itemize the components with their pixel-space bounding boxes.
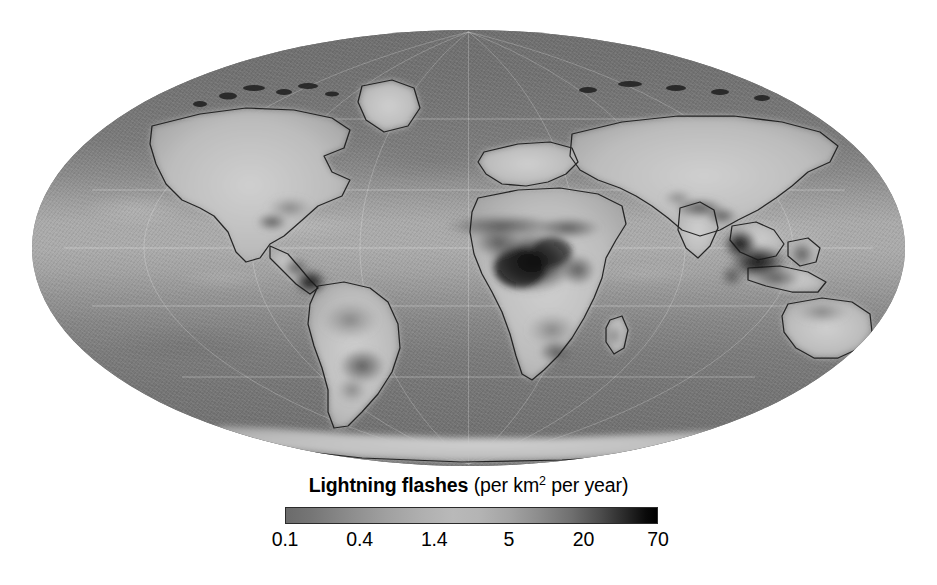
legend-title-unit-suffix: per year) (546, 474, 628, 496)
colorbar-tick-5: 70 (647, 528, 668, 551)
colorbar-tick-2: 1.4 (421, 528, 448, 551)
lightning-flash-density-figure: Lightning flashes (per km2 per year) 0.1… (0, 0, 937, 585)
colorbar-tick-1: 0.4 (346, 528, 373, 551)
map-clip-ellipse (32, 30, 905, 466)
colorbar-tick-4: 20 (573, 528, 594, 551)
world-map-mollweide (32, 30, 905, 466)
arctic-islands (193, 81, 770, 107)
colorbar-gradient (285, 507, 658, 524)
legend: Lightning flashes (per km2 per year) 0.1… (0, 474, 937, 554)
legend-title: Lightning flashes (per km2 per year) (0, 474, 937, 497)
colorbar-tick-labels: 0.1 0.4 1.4 5 20 70 (285, 528, 658, 554)
legend-title-unit-exponent: 2 (539, 474, 546, 488)
legend-title-unit-prefix: (per km (468, 474, 539, 496)
legend-title-bold: Lightning flashes (309, 474, 469, 496)
map-lightning-density-layer (32, 30, 905, 466)
colorbar-tick-3: 5 (503, 528, 514, 551)
colorbar-tick-0: 0.1 (272, 528, 299, 551)
